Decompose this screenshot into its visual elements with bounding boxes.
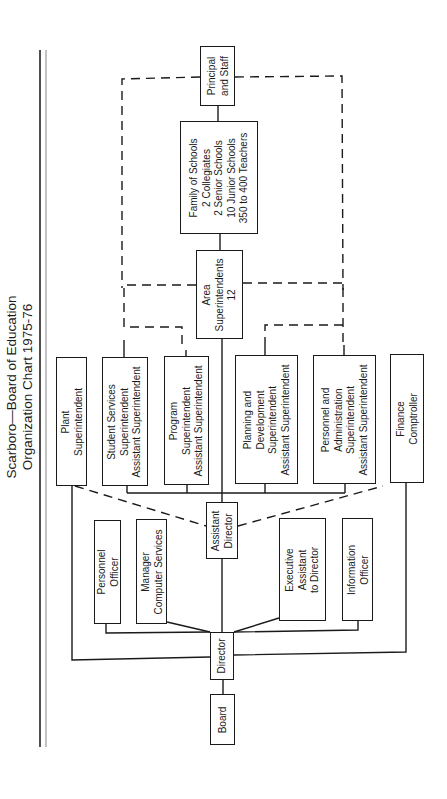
information-officer-box: Information Officer xyxy=(342,518,373,621)
node-label: Information xyxy=(345,544,358,594)
area-superintendents-box: Area Superintendents 12 xyxy=(196,250,243,339)
chart-title-line1: Scarboro—Board of Education xyxy=(4,252,20,522)
family-of-schools-box: Family of Schools 2 Collegiates 2 Senior… xyxy=(180,121,258,234)
chart-title-line2: Organization Chart 1975-76 xyxy=(20,252,36,522)
student-services-box: Student Services Superintendent Assistan… xyxy=(102,357,148,486)
director-box: Director xyxy=(210,632,234,680)
node-label: Assistant Superintendent xyxy=(131,366,144,477)
node-label: 10 Junior Schools xyxy=(225,132,238,222)
node-label: Finance xyxy=(395,393,408,445)
node-label: Student Services xyxy=(106,366,119,477)
node-label: and Staff xyxy=(218,56,231,96)
node-label: Superintendent xyxy=(345,364,358,475)
node-label: to Director xyxy=(309,546,322,592)
node-label: Principal xyxy=(205,56,218,96)
node-label: Superintendent xyxy=(267,364,280,475)
personnel-officer-box: Personnel Officer xyxy=(94,520,121,624)
node-label: Development xyxy=(254,364,267,475)
node-label: Administration xyxy=(332,364,345,475)
node-label: Area xyxy=(201,258,214,331)
node-label: Planning and xyxy=(242,364,255,475)
node-label: Family of Schools xyxy=(188,132,201,222)
node-label: Program xyxy=(168,365,181,476)
board-box: Board xyxy=(210,694,235,745)
node-label: Assistant Superintendent xyxy=(193,365,206,476)
node-label: Officer xyxy=(108,549,121,594)
node-label: Superintendents xyxy=(213,258,226,331)
program-box: Program Superintendent Assistant Superin… xyxy=(164,356,209,485)
node-label: Comptroller xyxy=(407,393,420,445)
node-label: Assistant xyxy=(296,546,309,592)
principal-and-staff-box: Principaland Staff xyxy=(200,46,235,106)
node-label: Executive xyxy=(284,546,297,592)
personnel-administration-box: Personnel and Administration Superintend… xyxy=(313,355,376,484)
node-label: Officer xyxy=(358,544,371,594)
finance-comptroller-box: Finance Comptroller xyxy=(390,354,424,483)
node-label: Plant xyxy=(59,388,72,456)
chart-title: Scarboro—Board of Education Organization… xyxy=(4,252,38,522)
node-label: Board xyxy=(216,706,229,733)
node-label: Personnel and xyxy=(320,364,333,475)
node-label: 350 to 400 Teachers xyxy=(238,132,251,222)
node-label: Director xyxy=(222,510,235,551)
node-label: Assistant xyxy=(210,510,223,551)
node-label: Director xyxy=(216,638,229,673)
node-label: Assistant Superintendent xyxy=(279,364,292,475)
executive-assistant-box: Executive Assistant to Director xyxy=(279,518,326,621)
node-label: Superintendent xyxy=(72,388,85,456)
planning-development-box: Planning and Development Superintendent … xyxy=(235,355,298,484)
node-label: Manager xyxy=(139,529,152,614)
node-label: 12 xyxy=(226,258,239,331)
node-label: 2 Collegiates xyxy=(200,132,213,222)
node-label: Computer Services xyxy=(152,529,165,614)
node-label: 2 Senior Schools xyxy=(213,132,226,222)
node-label: Assistant Superintendent xyxy=(357,364,370,475)
manager-computer-services-box: Manager Computer Services xyxy=(136,519,167,624)
node-label: Superintendent xyxy=(180,365,193,476)
node-label: Personnel xyxy=(95,549,108,594)
node-label: Superintendent xyxy=(119,366,132,477)
plant-superintendent-box: Plant Superintendent xyxy=(56,357,87,486)
assistant-director-box: Assistant Director xyxy=(206,502,238,559)
